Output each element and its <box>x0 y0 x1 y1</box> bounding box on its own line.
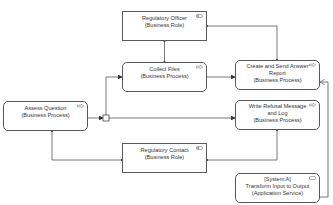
node-title: Write Refusal Message <box>249 103 307 110</box>
node-title: Create and Send Answer <box>246 63 308 70</box>
node-type: (Business Process) <box>253 77 301 84</box>
edge-transform-create <box>320 82 328 197</box>
business-process-arrow-icon <box>309 63 316 67</box>
node-transform-input-output[interactable]: [System A] Transform Input to Output (Ap… <box>235 173 320 203</box>
node-type: (Business Process) <box>140 73 188 80</box>
node-type: (Business Process) <box>21 112 69 119</box>
node-collect-files[interactable]: Collect Files (Business Process) <box>122 62 207 92</box>
node-regulatory-officer[interactable]: Regulatory Officer (Business Role) <box>122 11 207 41</box>
node-type: (Business Process) <box>253 117 301 124</box>
node-assess-question[interactable]: Assess Question (Business Process) <box>3 101 88 131</box>
node-type: (Business Role) <box>145 22 184 29</box>
node-title: Transform Input to Output <box>246 183 310 190</box>
node-title: Regulatory Contact <box>141 147 189 154</box>
business-role-icon <box>196 14 203 18</box>
node-create-send-answer-report[interactable]: Create and Send Answer Report (Business … <box>235 60 320 90</box>
business-process-arrow-icon <box>77 104 84 108</box>
application-service-icon <box>309 176 316 180</box>
node-system-label: [System A] <box>264 176 291 183</box>
node-title: Assess Question <box>25 105 67 112</box>
node-type: (Application Service) <box>252 190 303 197</box>
node-title: Regulatory Officer <box>142 15 187 22</box>
node-title-cont: and Log <box>267 110 287 117</box>
business-role-icon <box>196 146 203 150</box>
or-junction <box>103 115 109 121</box>
node-type: (Business Role) <box>145 154 184 161</box>
edge-assess-contact <box>52 131 122 160</box>
business-process-arrow-icon <box>309 103 316 107</box>
edge-junction-collect <box>106 77 122 115</box>
node-title-cont: Report <box>269 70 286 77</box>
node-title: Collect Files <box>149 66 179 73</box>
node-write-refusal-message[interactable]: Write Refusal Message and Log (Business … <box>235 100 320 130</box>
node-regulatory-contact[interactable]: Regulatory Contact (Business Role) <box>122 143 207 173</box>
edge-refusal-contact <box>207 130 277 160</box>
edge-officer-create <box>207 26 277 60</box>
business-process-arrow-icon <box>196 65 203 69</box>
